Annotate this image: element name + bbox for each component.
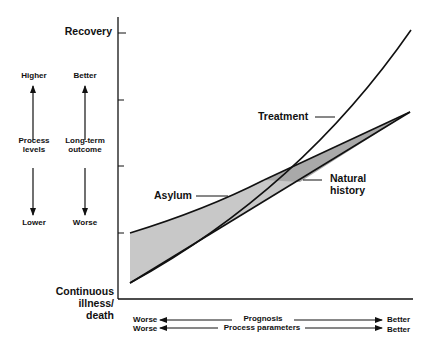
asylum-label: Asylum — [154, 189, 192, 201]
process-worse-label: Worse — [133, 324, 157, 333]
continuous-line-1: Continuous — [40, 285, 114, 297]
continuous-line-3: death — [40, 309, 114, 321]
process-better-label: Better — [387, 325, 410, 334]
process-levels-label: Process levels — [18, 136, 49, 154]
lower-label: Lower — [22, 218, 46, 227]
process-parameters-label: Process parameters — [224, 323, 301, 332]
long-term-outcome-label: Long-term outcome — [65, 136, 105, 154]
prognosis-worse-label: Worse — [133, 315, 157, 324]
better-label: Better — [73, 71, 96, 80]
natural-line-1: Natural — [330, 172, 366, 184]
prognosis-label: Prognosis — [243, 314, 282, 323]
process-line-2: levels — [18, 145, 49, 154]
longterm-line-2: outcome — [65, 145, 105, 154]
continuous-illness-label: Continuous illness/ death — [40, 285, 114, 321]
worse-label: Worse — [73, 218, 97, 227]
treatment-label: Treatment — [258, 110, 308, 122]
higher-label: Higher — [21, 71, 46, 80]
process-line-1: Process — [18, 136, 49, 145]
prognosis-better-label: Better — [387, 315, 410, 324]
natural-history-label: Natural history — [330, 172, 366, 196]
natural-line-2: history — [330, 184, 366, 196]
recovery-label: Recovery — [40, 25, 112, 37]
continuous-line-2: illness/ — [40, 297, 114, 309]
longterm-line-1: Long-term — [65, 136, 105, 145]
